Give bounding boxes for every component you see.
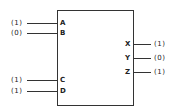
- output-z-value: (1): [154, 68, 165, 76]
- output-x-pin: X: [125, 40, 130, 48]
- input-b-pin: B: [60, 29, 65, 37]
- input-d-pin: D: [60, 87, 66, 95]
- input-c-value: (1): [11, 76, 22, 84]
- output-x-line: [133, 44, 151, 45]
- output-y-pin: Y: [125, 54, 130, 62]
- input-d-line: [27, 91, 58, 92]
- input-a-line: [27, 23, 58, 24]
- input-c-line: [27, 80, 58, 81]
- output-z-line: [133, 72, 151, 73]
- input-c-pin: C: [60, 76, 65, 84]
- output-z-pin: Z: [125, 68, 130, 76]
- output-x-value: (1): [154, 40, 165, 48]
- input-b-value: (0): [11, 29, 22, 37]
- input-b-line: [27, 33, 58, 34]
- output-y-value: (0): [154, 54, 165, 62]
- input-a-pin: A: [60, 19, 65, 27]
- output-y-line: [133, 58, 151, 59]
- logic-block: [57, 10, 134, 106]
- input-d-value: (1): [11, 87, 22, 95]
- input-a-value: (1): [11, 19, 22, 27]
